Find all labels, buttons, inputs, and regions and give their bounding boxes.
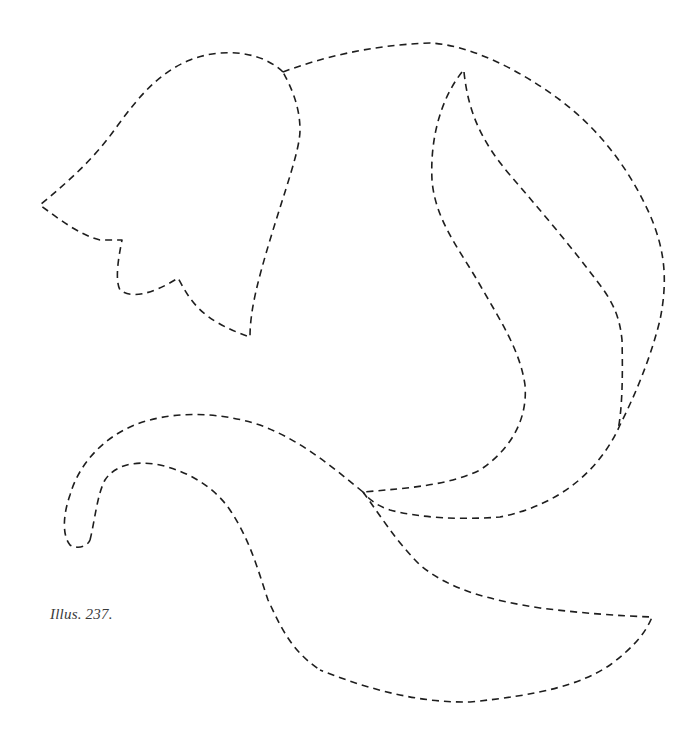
figure-caption: Illus. 237. — [50, 606, 113, 623]
lower-leaf-outline — [320, 492, 652, 702]
pattern-illustration — [0, 0, 699, 741]
stem-inner-outline — [90, 463, 320, 670]
upper-leaf-inner-left — [363, 72, 525, 492]
upper-leaf-outer-outline — [283, 43, 664, 518]
stem-outer-outline — [64, 415, 363, 548]
illustration-page: Illus. 237. — [0, 0, 699, 741]
upper-leaf-inner-right — [464, 72, 622, 430]
bell-flower-outline — [40, 53, 300, 337]
